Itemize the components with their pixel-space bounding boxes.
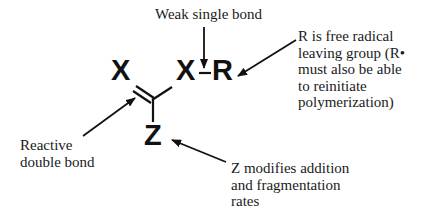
label-line: Reactive xyxy=(20,137,95,154)
single-bond-c-x xyxy=(152,87,172,100)
arrow-double-bond xyxy=(83,98,135,136)
raft-agent-diagram: X X R Z Weak single bond Reactive double… xyxy=(0,0,423,218)
label-reactive-double-bond: Reactive double bond xyxy=(20,137,95,170)
label-line: and fragmentation xyxy=(231,177,349,194)
label-line: polymerization) xyxy=(298,94,405,111)
label-line: double bond xyxy=(20,154,95,171)
label-line: must also be able xyxy=(298,61,405,78)
double-bond xyxy=(133,86,154,103)
arrow-z-group xyxy=(172,140,226,162)
arrow-r-group xyxy=(238,40,296,76)
label-line: rates xyxy=(231,193,349,210)
label-line: to reinitiate xyxy=(298,78,405,95)
atom-x-left: X xyxy=(111,56,130,85)
label-r-group: R is free radical leaving group (R• must… xyxy=(298,28,405,111)
label-line: Z modifies addition xyxy=(231,160,349,177)
atom-x-right: X xyxy=(176,56,195,85)
label-line: R is free radical xyxy=(298,28,405,45)
label-weak-single-bond: Weak single bond xyxy=(155,6,262,23)
label-line: leaving group (R• xyxy=(298,45,405,62)
label-z-group: Z modifies addition and fragmentation ra… xyxy=(231,160,349,210)
atom-r: R xyxy=(212,56,233,85)
atom-z: Z xyxy=(144,121,162,150)
